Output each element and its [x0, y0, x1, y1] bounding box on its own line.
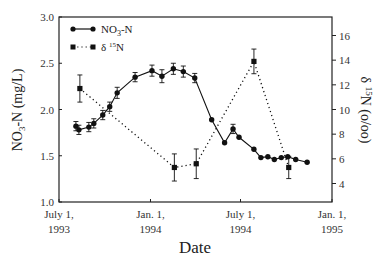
data-point-no3	[76, 127, 81, 132]
x-tick-label: Jan. 1,	[318, 208, 347, 220]
data-point-d15n	[194, 161, 199, 166]
data-point-no3	[107, 104, 112, 109]
axes: 1.01.52.02.53.046810121416July 1,1993Jan…	[40, 11, 350, 235]
data-point-d15n	[286, 165, 291, 170]
x-tick-label-year: 1993	[48, 223, 71, 235]
data-point-no3	[279, 155, 284, 160]
data-point-no3	[272, 157, 277, 162]
data-point-no3	[209, 117, 214, 122]
data-point-no3	[100, 112, 105, 117]
y-left-tick-label: 1.5	[40, 150, 54, 162]
y-right-tick-label: 16	[339, 30, 351, 42]
legend-entry-d15n: δ 15N	[71, 41, 124, 53]
data-point-no3	[159, 74, 164, 79]
y-axis-right-title: δ 15N (o/oo)	[357, 77, 374, 144]
data-point-no3	[86, 124, 91, 129]
y-right-tick-label: 6	[339, 153, 345, 165]
y-right-tick-label: 4	[339, 178, 345, 190]
y-right-tick-label: 12	[339, 79, 350, 91]
data-point-no3	[114, 90, 119, 95]
data-point-no3	[265, 154, 270, 159]
y-left-tick-label: 1.0	[40, 196, 54, 208]
x-tick-label-year: 1994	[139, 223, 162, 235]
legend-entry-no3: NO3-N	[70, 23, 132, 38]
data-point-no3	[181, 69, 186, 74]
data-point-no3	[149, 68, 154, 73]
data-point-no3	[171, 66, 176, 71]
data-point-d15n	[251, 59, 256, 64]
y-left-tick-label: 2.0	[40, 104, 54, 116]
data-point-no3	[91, 121, 96, 126]
data-point-no3	[258, 155, 263, 160]
y-right-tick-label: 10	[339, 104, 351, 116]
data-point-no3	[230, 126, 235, 131]
plot-area	[73, 49, 310, 181]
data-point-d15n	[172, 165, 177, 170]
legend-marker-circle	[70, 26, 75, 31]
x-tick-label: July 1,	[44, 208, 74, 220]
series-line-no3	[76, 69, 307, 162]
x-tick-label: Jan. 1,	[136, 208, 165, 220]
data-point-no3	[222, 140, 227, 145]
y-right-tick-label: 14	[339, 54, 351, 66]
y-axis-left-title: NO3-N (mg/L)	[10, 68, 27, 151]
data-point-no3	[192, 75, 197, 80]
legend: NO3-N δ 15N	[70, 23, 132, 53]
y-left-tick-label: 3.0	[40, 11, 54, 23]
x-axis-title: Date	[179, 238, 211, 257]
data-point-d15n	[77, 86, 82, 91]
legend-marker-circle	[90, 26, 95, 31]
legend-label-no3: NO3-N	[101, 23, 133, 38]
data-point-no3	[304, 160, 309, 165]
chart: 1.01.52.02.53.046810121416July 1,1993Jan…	[0, 0, 380, 270]
data-point-no3	[132, 74, 137, 79]
legend-label-d15n: δ 15N	[101, 41, 124, 53]
y-left-tick-label: 2.5	[40, 57, 54, 69]
x-tick-label: July 1,	[226, 208, 256, 220]
legend-marker-square	[71, 45, 76, 50]
plot-frame	[59, 17, 332, 202]
x-tick-label-year: 1995	[321, 223, 344, 235]
data-point-no3	[293, 157, 298, 162]
data-point-no3	[236, 135, 241, 140]
data-point-no3	[251, 147, 256, 152]
y-right-tick-label: 8	[339, 128, 345, 140]
x-tick-label-year: 1994	[230, 223, 253, 235]
legend-marker-square	[91, 45, 96, 50]
